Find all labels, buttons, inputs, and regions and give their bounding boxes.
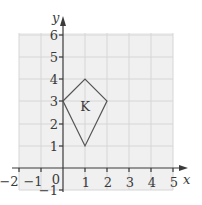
x-tick-labels: −2 −1 0 1 2 3 4 5: [0, 172, 178, 190]
y-tick-label: 3: [50, 94, 58, 109]
x-axis-label: x: [183, 172, 191, 187]
x-tick-label: 4: [148, 175, 156, 190]
y-axis-label: y: [51, 10, 60, 25]
y-axis-arrow-icon: [60, 16, 66, 26]
x-tick-label: 1: [82, 175, 90, 190]
y-tick-label: 2: [50, 117, 58, 132]
y-tick-label: 4: [50, 72, 58, 87]
x-tick-label: 5: [170, 175, 178, 190]
y-tick-label: −1: [39, 183, 58, 198]
y-tick-label: 1: [50, 139, 58, 154]
x-tick-label: 3: [126, 175, 134, 190]
x-tick-label: 2: [104, 175, 112, 190]
x-tick-label: −2: [0, 174, 19, 189]
coordinate-diagram: x y −2 −1 0 1 2 3 4 5 −1 1 2 3 4 5 6 K: [0, 0, 202, 205]
y-tick-label: 6: [50, 28, 58, 43]
shape-label: K: [80, 99, 90, 114]
y-tick-label: 5: [50, 50, 58, 65]
x-axis-arrow-icon: [179, 165, 188, 171]
